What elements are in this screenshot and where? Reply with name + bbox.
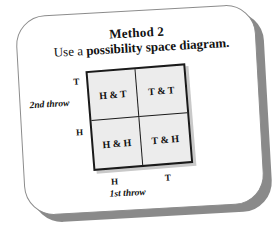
grid-cell-top-right: T & T	[135, 65, 187, 117]
y-axis-tick-top: T	[73, 76, 80, 86]
grid-cell-top-left: H & T	[88, 69, 140, 121]
x-axis-title: 1st throw	[109, 187, 146, 199]
subtitle-prefix: Use a	[53, 43, 86, 60]
possibility-space-diagram: H & T T & T H & H T & H	[85, 63, 197, 175]
y-axis-tick-bottom: H	[76, 127, 84, 137]
grid-cell-bottom-right: T & H	[139, 113, 191, 165]
diagram-stage: Method 2 Use a possibility space diagram…	[0, 0, 277, 237]
grid-cell-bottom-left: H & H	[92, 117, 144, 169]
method-card: Method 2 Use a possibility space diagram…	[15, 3, 266, 216]
x-axis-tick-left: H	[111, 176, 119, 186]
possibility-grid: H & T T & T H & H T & H	[85, 63, 193, 171]
y-axis-title: 2nd throw	[29, 98, 69, 110]
card-content: Method 2 Use a possibility space diagram…	[16, 4, 266, 216]
x-axis-tick-right: T	[165, 172, 172, 182]
